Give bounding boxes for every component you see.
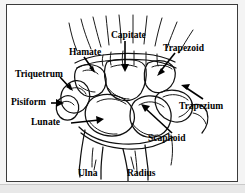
label-scaphoid: Scaphoid	[148, 133, 186, 143]
label-trapezium: Trapezium	[179, 101, 223, 111]
figure-frame: Hamate Capitate Trapezoid Triquetrum Pis…	[6, 4, 238, 182]
label-lunate: Lunate	[31, 117, 60, 127]
leader-triquetrum	[60, 77, 73, 91]
page-bottom-strip	[0, 184, 245, 193]
label-triquetrum: Triquetrum	[15, 69, 63, 79]
leader-trapezium	[181, 84, 203, 99]
figure-root: Hamate Capitate Trapezoid Triquetrum Pis…	[0, 0, 245, 193]
label-radius: Radius	[127, 168, 156, 178]
label-hamate: Hamate	[69, 47, 101, 57]
bone-scaphoid	[130, 96, 171, 138]
label-capitate: Capitate	[111, 30, 146, 40]
label-trapezoid: Trapezoid	[163, 43, 204, 53]
label-ulna: Ulna	[78, 168, 98, 178]
label-pisiform: Pisiform	[11, 97, 46, 107]
